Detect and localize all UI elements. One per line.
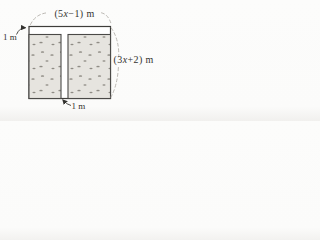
right-brace-dashed-lower [111, 68, 118, 98]
top-width-label-pre: (5 [54, 8, 63, 20]
top-margin-label: 1 m [3, 32, 17, 42]
top-brace-dashed-left [31, 13, 48, 25]
right-height-label-pre: (3 [114, 54, 123, 66]
top-width-label-post: −1) m [68, 8, 94, 20]
figure-canvas: (5x−1) m (3x+2) m 1 m 1 m [0, 0, 170, 121]
right-height-label: (3x+2) m [114, 54, 154, 66]
top-margin-arrow [17, 28, 26, 35]
right-height-label-post: +2) m [127, 54, 153, 66]
top-brace-dashed-right [102, 13, 112, 25]
right-brace-dashed-upper [111, 28, 119, 57]
left-panel [29, 35, 61, 99]
top-width-label: (5x−1) m [54, 8, 94, 20]
gap-width-label: 1 m [72, 101, 86, 111]
geometry-diagram: (5x−1) m (3x+2) m 1 m 1 m [0, 0, 170, 121]
right-panel [68, 35, 111, 99]
gap-arrow [63, 100, 71, 106]
